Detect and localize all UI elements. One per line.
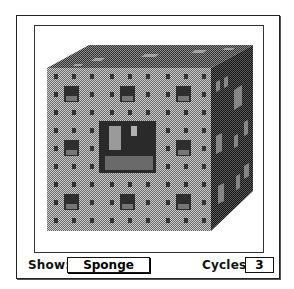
sponge-window: Show: Sponge Cycles: 3 bbox=[16, 15, 280, 279]
fractal-canvas bbox=[34, 25, 264, 253]
show-label: Show: bbox=[28, 258, 70, 272]
show-popup-menu[interactable]: Sponge bbox=[67, 257, 150, 273]
cycles-label: Cycles: bbox=[202, 258, 251, 272]
cycles-field[interactable]: 3 bbox=[245, 257, 274, 273]
menger-sponge-graphic bbox=[35, 26, 263, 252]
